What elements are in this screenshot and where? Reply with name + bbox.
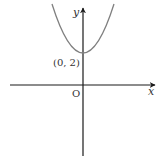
y-axis-label: y <box>72 6 80 19</box>
origin-label: O <box>72 88 80 99</box>
vertex-label: (0, 2) <box>53 57 80 68</box>
parabola-graph: y x O (0, 2) <box>0 0 157 165</box>
x-axis-label: x <box>148 85 155 98</box>
